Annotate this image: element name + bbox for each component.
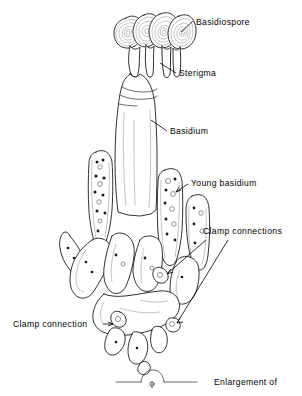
basidium-diagram-figure: Basidiospore Sterigma Basidium Young bas… [0, 0, 302, 396]
label-clamp-connections: Clamp connections [203, 226, 282, 236]
clamp-connection-lower [166, 318, 180, 332]
sterigma-2 [145, 45, 154, 77]
sterigma-1 [129, 46, 140, 77]
hyphal-mass [70, 233, 199, 375]
sterigma-group [129, 45, 181, 78]
label-basidiospore: Basidiospore [196, 17, 250, 27]
label-sterigma: Sterigma [179, 68, 216, 78]
diagram-canvas: Basidiospore Sterigma Basidium Young bas… [0, 0, 302, 396]
label-clamp-connection: Clamp connection [13, 319, 87, 329]
label-enlargement-of: Enlargement of [214, 377, 277, 387]
hypha-central-2 [133, 236, 162, 291]
basidiospore-group [114, 13, 196, 49]
clamp-connection-upper [153, 267, 168, 283]
young-basidium-1 [88, 151, 113, 246]
basidium [115, 74, 157, 216]
clamp-connection-enlargement [116, 370, 197, 388]
hypha-finger-3 [151, 326, 168, 352]
label-basidium: Basidium [170, 126, 208, 136]
sterigma-3 [162, 46, 171, 78]
label-young-basidium: Young basidium [191, 178, 257, 188]
